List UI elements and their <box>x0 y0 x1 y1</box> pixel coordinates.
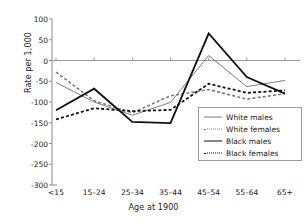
legend-label-white-males: White males <box>226 113 273 122</box>
chart-figure: Rate per 1,000 100500-50-100-150-200-250… <box>0 0 307 222</box>
legend-label-black-females: Black females <box>226 149 278 158</box>
legend-swatch-white-females <box>203 124 223 134</box>
legend-swatch-black-males <box>203 136 223 146</box>
x-tick-label: 65+ <box>263 188 307 197</box>
legend-item-black-females: Black females <box>203 147 297 159</box>
legend-item-black-males: Black males <box>203 135 297 147</box>
legend-label-black-males: Black males <box>226 137 271 146</box>
legend-item-white-males: White males <box>203 111 297 123</box>
x-axis-title: Age at 1900 <box>0 203 307 212</box>
legend-label-white-females: White females <box>226 125 280 134</box>
legend-item-white-females: White females <box>203 123 297 135</box>
chart-legend: White males White females Black males Bl… <box>198 107 302 161</box>
legend-swatch-black-females <box>203 148 223 158</box>
legend-swatch-white-males <box>203 112 223 122</box>
